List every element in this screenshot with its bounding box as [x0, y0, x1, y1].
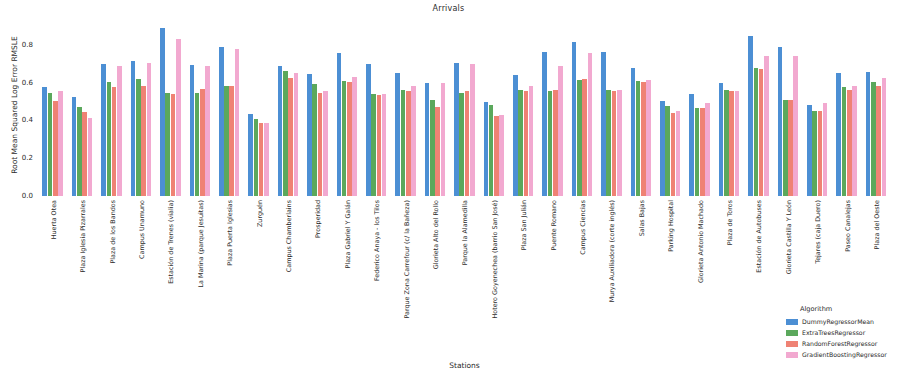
bar	[484, 102, 489, 196]
x-tick-label: Estación de Autobuses	[755, 200, 763, 273]
bar-group	[479, 22, 508, 196]
bar	[147, 63, 152, 196]
bar	[352, 77, 357, 196]
bar	[759, 69, 764, 196]
bar	[793, 56, 798, 196]
x-tick-group: Hotero Goyenechea (barrio San José)	[479, 198, 508, 328]
bar	[318, 93, 323, 196]
bar-group	[538, 22, 567, 196]
bar	[553, 90, 558, 196]
bar	[558, 66, 563, 197]
bar	[695, 108, 700, 196]
x-tick-group: Parque Zona Carrefour (c/ la Bañeza)	[391, 198, 420, 328]
bar	[323, 91, 328, 196]
legend-entry[interactable]: RandomForestRegressor	[786, 338, 897, 349]
x-tick-group: Plaza Puerta Iglesias	[214, 198, 243, 328]
bar	[788, 100, 793, 196]
bar	[371, 94, 376, 196]
bar-group	[361, 22, 390, 196]
bar-group	[185, 22, 214, 196]
bar	[88, 118, 93, 196]
bar	[107, 82, 112, 196]
x-tick-group: Plaza de Toros	[714, 198, 743, 328]
bar	[866, 72, 871, 196]
x-tick-group: Campus Ciencias	[567, 198, 596, 328]
bar-group	[861, 22, 890, 196]
bar-group	[685, 22, 714, 196]
legend-label: RandomForestRegressor	[802, 340, 877, 347]
x-tick-group: Murya Auxiliadora (corte inglés)	[597, 198, 626, 328]
bar	[513, 75, 518, 196]
bar	[548, 91, 553, 196]
bar	[48, 93, 53, 196]
bar	[470, 64, 475, 196]
bar	[842, 87, 847, 196]
bar	[248, 114, 253, 196]
bar	[665, 106, 670, 196]
bar	[430, 100, 435, 196]
bar-group	[626, 22, 655, 196]
x-tick-group: Plaza Gabriel Y Galán	[332, 198, 361, 328]
x-tick-group: Glorieta Antonio Machado	[685, 198, 714, 328]
x-tick-group: Puente Romano	[538, 198, 567, 328]
bar	[807, 105, 812, 196]
x-tick-label: Glorieta Antonio Machado	[697, 200, 705, 283]
bar	[636, 81, 641, 196]
bar-group	[509, 22, 538, 196]
bar	[200, 89, 205, 196]
bar	[283, 71, 288, 196]
bar	[617, 90, 622, 196]
bar	[259, 123, 264, 196]
bar	[631, 68, 636, 196]
bar	[735, 91, 740, 196]
bar	[871, 82, 876, 196]
bar	[764, 56, 769, 196]
bar	[572, 42, 577, 196]
x-tick-label: Parking Hospital	[667, 200, 675, 252]
bar	[165, 93, 170, 196]
bar	[337, 53, 342, 196]
bar	[224, 86, 229, 196]
bar	[847, 90, 852, 196]
bar	[82, 112, 87, 196]
bar-group	[67, 22, 96, 196]
legend-entry[interactable]: ExtraTreesRegressor	[786, 327, 897, 338]
legend-label: GradientBoostingRegressor	[802, 351, 887, 358]
bar	[72, 97, 77, 196]
x-tick-label: Tejares (caja Duero)	[814, 200, 822, 264]
x-tick-label: Paseo Canalejas	[844, 200, 852, 252]
legend-entry[interactable]: GradientBoostingRegressor	[786, 349, 897, 360]
bar	[171, 94, 176, 196]
bar	[235, 49, 240, 196]
bar	[646, 80, 651, 196]
x-tick-label: Plaza de los Bandos	[109, 200, 117, 264]
bar	[612, 91, 617, 196]
bar-group	[273, 22, 302, 196]
bar-group	[832, 22, 861, 196]
x-tick-label: Zurguén	[256, 200, 264, 227]
bar	[190, 65, 195, 196]
x-tick-group: Estación de Autobuses	[744, 198, 773, 328]
x-tick-label: Hotero Goyenechea (barrio San José)	[491, 200, 499, 319]
bar-group	[597, 22, 626, 196]
x-tick-group: La Marina (parque Jesuitas)	[185, 198, 214, 328]
legend-entry[interactable]: DummyRegressorMean	[786, 316, 897, 327]
legend-swatch	[786, 341, 798, 347]
bar-group	[714, 22, 743, 196]
bar	[719, 83, 724, 196]
x-tick-group: Federico Anaya - los Tilos	[361, 198, 390, 328]
x-tick-label: Campus Ciencias	[579, 200, 587, 255]
bar	[518, 90, 523, 196]
x-tick-group: Plaza San Julián	[509, 198, 538, 328]
bar-group	[97, 22, 126, 196]
legend-label: DummyRegressorMean	[802, 318, 874, 325]
bar	[342, 81, 347, 196]
bar	[176, 39, 181, 196]
bar	[818, 111, 823, 196]
bar	[136, 79, 141, 196]
bar	[141, 86, 146, 196]
x-tick-label: Murya Auxiliadora (corte inglés)	[608, 200, 616, 302]
x-tick-group: Plaza Iglesia Pizarrales	[67, 198, 96, 328]
bar	[876, 86, 881, 196]
bar-group	[38, 22, 67, 196]
